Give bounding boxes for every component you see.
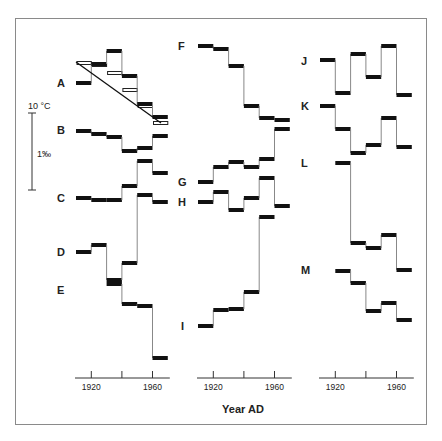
tick-label-1960: 1960 bbox=[143, 382, 162, 392]
series-e: E bbox=[57, 284, 168, 358]
series-l: L bbox=[301, 157, 412, 270]
tick-label-1920: 1920 bbox=[204, 382, 223, 392]
series-m: M bbox=[301, 264, 412, 320]
x-axis-3: 19201960 bbox=[319, 371, 414, 392]
series-label-b: B bbox=[57, 124, 65, 136]
series-label-g: G bbox=[178, 176, 187, 188]
series-k: K bbox=[301, 100, 412, 153]
x-axes: 192019601920196019201960 bbox=[75, 371, 414, 392]
tick-label-1920: 1920 bbox=[326, 382, 345, 392]
scale-top-label: 10 °C bbox=[28, 101, 51, 111]
series-label-d: D bbox=[57, 246, 65, 258]
open-bar bbox=[123, 89, 137, 92]
scale-bar: 10 °C 1‰ bbox=[28, 101, 51, 190]
series-label-e: E bbox=[57, 284, 64, 296]
scale-mid-label: 1‰ bbox=[37, 149, 51, 159]
series-label-j: J bbox=[301, 55, 307, 67]
series-label-m: M bbox=[301, 264, 310, 276]
tick-label-1960: 1960 bbox=[387, 382, 406, 392]
series-label-a: A bbox=[57, 77, 65, 89]
series-j: J bbox=[301, 46, 412, 95]
open-bar bbox=[108, 72, 122, 75]
series-label-k: K bbox=[301, 100, 309, 112]
series-label-i: I bbox=[181, 320, 184, 332]
series-label-l: L bbox=[301, 157, 308, 169]
series-c: C bbox=[57, 161, 168, 204]
tick-label-1960: 1960 bbox=[265, 382, 284, 392]
series-label-f: F bbox=[178, 40, 185, 52]
series-h: H bbox=[178, 178, 290, 210]
series-layer: ABCDEFGHIJKLM bbox=[57, 40, 412, 358]
tick-label-1920: 1920 bbox=[82, 382, 101, 392]
series-a: A bbox=[57, 51, 168, 125]
figure-frame bbox=[16, 19, 427, 425]
series-d: D bbox=[57, 195, 168, 280]
series-i: I bbox=[181, 217, 275, 332]
series-f: F bbox=[178, 40, 290, 120]
x-axis-1: 19201960 bbox=[75, 371, 170, 392]
x-axis-title: Year AD bbox=[222, 403, 264, 415]
series-label-h: H bbox=[178, 196, 186, 208]
series-label-c: C bbox=[57, 192, 65, 204]
x-axis-2: 19201960 bbox=[197, 371, 292, 392]
series-b: B bbox=[57, 124, 168, 151]
step-chart: 10 °C 1‰ ABCDEFGHIJKLM 19201960192019601… bbox=[0, 0, 442, 441]
